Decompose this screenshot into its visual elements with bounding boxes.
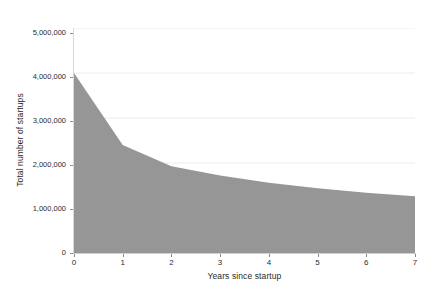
y-tick-label: 4,000,000 (0, 73, 66, 81)
x-tick-label: 6 (356, 258, 376, 268)
x-tick-label: 3 (210, 258, 230, 268)
x-axis-line (73, 253, 416, 254)
x-tick-label: 7 (405, 258, 425, 268)
y-tick-label: 2,000,000 (0, 161, 66, 169)
x-tick-mark (318, 254, 319, 257)
plot-svg (74, 28, 415, 253)
area-chart: Total number of startups 5,000,000 4,000… (0, 0, 441, 296)
y-tick-label: 0 (0, 249, 66, 257)
x-tick-mark (171, 254, 172, 257)
y-axis-line (73, 28, 74, 254)
x-tick-mark (123, 254, 124, 257)
x-tick-mark (220, 254, 221, 257)
x-tick-label: 4 (259, 258, 279, 268)
x-tick-label: 0 (64, 258, 84, 268)
y-tick-label: 3,000,000 (0, 117, 66, 125)
y-tick-label: 5,000,000 (0, 29, 66, 37)
x-tick-label: 5 (308, 258, 328, 268)
x-tick-label: 1 (113, 258, 133, 268)
y-tick-label: 1,000,000 (0, 205, 66, 213)
plot-area (74, 28, 415, 253)
x-axis-title: Years since startup (74, 271, 415, 281)
x-tick-mark (366, 254, 367, 257)
x-tick-mark (74, 254, 75, 257)
y-axis-tick-labels: 5,000,000 4,000,000 3,000,000 2,000,000 … (0, 0, 66, 296)
x-tick-mark (415, 254, 416, 257)
x-tick-label: 2 (161, 258, 181, 268)
x-tick-mark (269, 254, 270, 257)
